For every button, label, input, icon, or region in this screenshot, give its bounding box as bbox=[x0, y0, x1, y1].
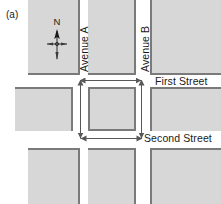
avenue-a-label: Avenue A bbox=[79, 26, 90, 72]
street-grid-figure: (a) bbox=[0, 0, 221, 204]
second-street-label: Second Street bbox=[144, 133, 212, 144]
avenue-b-label: Avenue B bbox=[140, 26, 151, 72]
center-block-dimension-arrows bbox=[0, 0, 221, 204]
first-street-label: First Street bbox=[155, 76, 208, 87]
